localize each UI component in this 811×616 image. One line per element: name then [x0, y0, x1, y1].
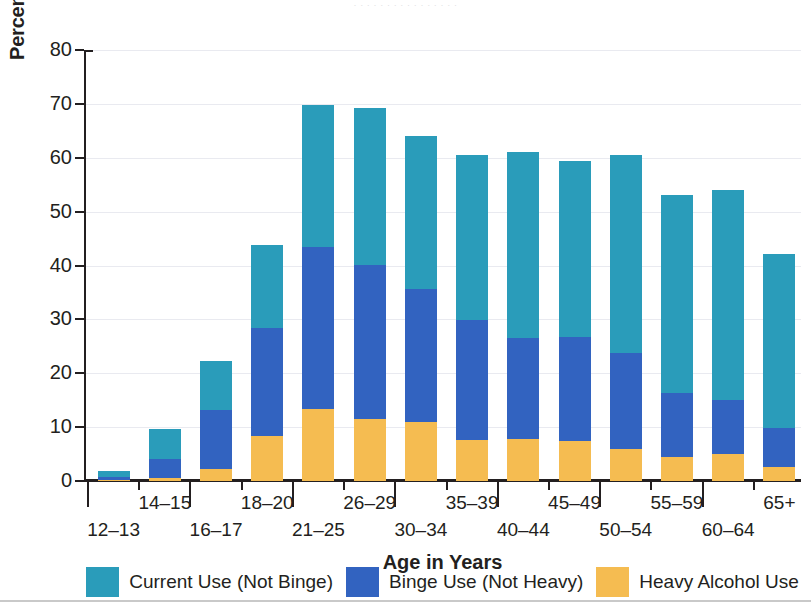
gridline [84, 104, 801, 105]
legend-item-current[interactable]: Current Use (Not Binge) [86, 567, 333, 597]
x-axis-tick [343, 482, 345, 490]
bar-stack[interactable] [763, 30, 795, 461]
bar-segment-binge-use[interactable] [456, 320, 488, 440]
y-axis-tick-label: 80 [26, 38, 72, 61]
y-axis-tick-label: 60 [26, 146, 72, 169]
bar-stack[interactable] [456, 30, 488, 461]
bar-segment-heavy-use[interactable] [149, 478, 181, 481]
bar-segment-heavy-use[interactable] [456, 440, 488, 481]
y-axis-tick [75, 265, 84, 267]
bar-stack[interactable] [559, 30, 591, 461]
bar-segment-current-use[interactable] [610, 155, 642, 353]
bar-segment-binge-use[interactable] [507, 338, 539, 439]
bar-stack[interactable] [251, 30, 283, 461]
bar-segment-heavy-use[interactable] [763, 467, 795, 481]
bar-segment-current-use[interactable] [405, 136, 437, 289]
bar-segment-binge-use[interactable] [610, 353, 642, 448]
bar-segment-current-use[interactable] [354, 108, 386, 265]
bar-segment-current-use[interactable] [712, 190, 744, 401]
bar-segment-heavy-use[interactable] [98, 480, 130, 481]
legend-swatch-heavy [596, 567, 629, 597]
bar-segment-binge-use[interactable] [251, 328, 283, 436]
y-axis-tick [75, 157, 84, 159]
y-axis-tick [75, 49, 84, 51]
bar-segment-binge-use[interactable] [149, 459, 181, 478]
x-axis-tick-label: 26–29 [343, 492, 396, 514]
bar-stack[interactable] [200, 30, 232, 461]
bar-segment-heavy-use[interactable] [507, 439, 539, 481]
bar-segment-heavy-use[interactable] [661, 457, 693, 481]
legend-swatch-binge [346, 567, 379, 597]
x-axis-tick-label: 60–64 [702, 519, 755, 541]
bar-segment-current-use[interactable] [200, 361, 232, 410]
gridline [84, 427, 801, 428]
y-axis-tick [75, 103, 84, 105]
y-axis-tick [75, 480, 84, 482]
bar-segment-current-use[interactable] [251, 245, 283, 328]
bar-stack[interactable] [405, 30, 437, 461]
x-axis-line [84, 479, 801, 482]
bar-segment-heavy-use[interactable] [559, 441, 591, 481]
bar-segment-current-use[interactable] [149, 429, 181, 459]
bar-stack[interactable] [507, 30, 539, 461]
y-axis-tick-label: 20 [26, 361, 72, 384]
x-axis-tick [650, 482, 652, 490]
x-axis-tick-label: 50–54 [599, 519, 652, 541]
y-axis-tick-label: 70 [26, 92, 72, 115]
bar-stack[interactable] [149, 30, 181, 461]
x-axis-tick-label: 18–20 [241, 492, 294, 514]
plot-area: 01020304050607080 Percent Using in Past … [84, 30, 801, 461]
legend-label: Heavy Alcohol Use [639, 571, 798, 593]
y-axis-tick [75, 318, 84, 320]
bar-segment-heavy-use[interactable] [405, 422, 437, 481]
bar-segment-binge-use[interactable] [661, 393, 693, 457]
x-axis-tick-label: 40–44 [497, 519, 550, 541]
bar-segment-binge-use[interactable] [763, 428, 795, 467]
bar-segment-current-use[interactable] [661, 195, 693, 393]
bar-segment-binge-use[interactable] [405, 289, 437, 422]
y-axis-tick [75, 426, 84, 428]
bar-segment-current-use[interactable] [456, 155, 488, 321]
bar-stack[interactable] [302, 30, 334, 461]
y-axis-tick-label: 30 [26, 307, 72, 330]
bar-segment-current-use[interactable] [302, 105, 334, 247]
gridline [84, 50, 801, 51]
legend-label: Current Use (Not Binge) [129, 571, 333, 593]
bar-stack[interactable] [712, 30, 744, 461]
bar-segment-heavy-use[interactable] [354, 419, 386, 481]
bar-stack[interactable] [610, 30, 642, 461]
bar-segment-heavy-use[interactable] [610, 449, 642, 481]
bar-stack[interactable] [98, 30, 130, 461]
gridline [84, 373, 801, 374]
y-axis-tick-label: 50 [26, 200, 72, 223]
x-axis-tick [753, 482, 755, 490]
bar-stack[interactable] [661, 30, 693, 461]
bar-segment-heavy-use[interactable] [712, 454, 744, 481]
legend-item-heavy[interactable]: Heavy Alcohol Use [596, 567, 798, 597]
x-axis-tick-label: 55–59 [651, 492, 704, 514]
y-axis-tick-label: 0 [26, 469, 72, 492]
chart-legend: Current Use (Not Binge)Binge Use (Not He… [84, 565, 801, 599]
bar-segment-binge-use[interactable] [712, 400, 744, 454]
y-axis-title: Percent Using in Past Month [6, 0, 29, 60]
gridline [84, 212, 801, 213]
legend-item-binge[interactable]: Binge Use (Not Heavy) [346, 567, 583, 597]
legend-swatch-current [86, 567, 119, 597]
bar-segment-current-use[interactable] [763, 254, 795, 429]
bar-segment-heavy-use[interactable] [200, 469, 232, 481]
y-axis-tick [75, 211, 84, 213]
bar-segment-binge-use[interactable] [354, 265, 386, 419]
bar-segment-binge-use[interactable] [559, 337, 591, 441]
bar-segment-heavy-use[interactable] [302, 409, 334, 481]
bar-segment-heavy-use[interactable] [251, 436, 283, 481]
bar-segment-binge-use[interactable] [200, 410, 232, 469]
x-axis-tick-label: 21–25 [292, 519, 345, 541]
clipped-header-text: · · · · · · · · · · · · · · · · [0, 0, 811, 10]
bar-segment-current-use[interactable] [507, 152, 539, 338]
x-axis-tick-label: 30–34 [394, 519, 447, 541]
bar-stack[interactable] [354, 30, 386, 461]
x-axis-tick-label: 45–49 [548, 492, 601, 514]
legend-label: Binge Use (Not Heavy) [389, 571, 583, 593]
bar-segment-current-use[interactable] [559, 161, 591, 337]
bar-segment-binge-use[interactable] [302, 247, 334, 409]
